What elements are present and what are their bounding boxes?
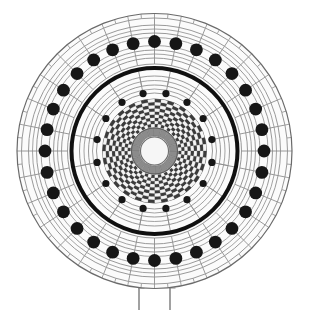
inner-column-dot (208, 159, 215, 166)
mosaic-cell (148, 99, 155, 103)
inner-column-dot (200, 180, 207, 187)
mosaic-cell (155, 102, 161, 106)
mosaic-cell (155, 190, 161, 193)
perimeter-column-dot (190, 246, 203, 259)
perimeter-column-dot (57, 84, 70, 97)
perimeter-column-dot (169, 252, 182, 265)
legs-group (138, 288, 175, 310)
mosaic-cell (184, 147, 187, 151)
mosaic-cell (155, 187, 160, 190)
perimeter-column-dot (57, 205, 70, 218)
inner-column-dot (94, 159, 101, 166)
circular-plan-figure (0, 0, 309, 316)
mosaic-cell (106, 151, 110, 157)
mosaic-cell (150, 181, 154, 184)
perimeter-column-dot (226, 222, 239, 235)
perimeter-column-dot (47, 103, 60, 116)
mosaic-cell (148, 196, 154, 200)
mosaic-cell (127, 151, 130, 155)
mosaic-cell (151, 178, 155, 181)
perimeter-column-dot (71, 222, 84, 235)
mosaic-cell (149, 105, 155, 108)
mosaic-cell (127, 147, 130, 151)
mosaic-cell (150, 184, 155, 187)
mosaic-cell (155, 115, 160, 118)
perimeter-column-dot (148, 254, 161, 267)
inner-column-dot (139, 90, 146, 97)
mosaic-cell (150, 115, 155, 118)
mosaic-cell (181, 147, 184, 151)
mosaic-cell (124, 147, 127, 151)
hub-oculus-disc (141, 137, 169, 165)
hub-group (132, 128, 178, 174)
inner-column-dot (94, 136, 101, 143)
mosaic-cell (155, 196, 161, 200)
perimeter-column-dot (127, 37, 140, 50)
perimeter-column-dot (239, 205, 252, 218)
mosaic-cell (188, 151, 191, 156)
mosaic-cell (151, 175, 155, 178)
mosaic-cell (194, 151, 197, 157)
perimeter-column-dot (209, 236, 222, 249)
perimeter-column-dot (190, 43, 203, 56)
mosaic-cell (121, 151, 124, 155)
perimeter-column-dot (239, 84, 252, 97)
perimeter-column-dot (255, 166, 268, 179)
perimeter-column-dot (127, 252, 140, 265)
inner-column-dot (118, 196, 125, 203)
perimeter-column-dot (255, 123, 268, 136)
perimeter-column-dot (71, 67, 84, 80)
perimeter-column-dot (258, 145, 271, 158)
perimeter-column-dot (249, 187, 262, 200)
perimeter-column-dot (209, 54, 222, 67)
mosaic-cell (200, 151, 204, 157)
mosaic-cell (118, 146, 121, 151)
mosaic-cell (155, 124, 159, 127)
mosaic-cell (149, 111, 154, 114)
perimeter-column-dot (226, 67, 239, 80)
inner-column-dot (102, 180, 109, 187)
mosaic-cell (112, 151, 115, 157)
mosaic-cell (115, 146, 118, 151)
mosaic-cell (151, 124, 155, 127)
mosaic-cell (155, 108, 161, 111)
mosaic-cell (112, 145, 115, 151)
perimeter-column-dot (87, 236, 100, 249)
mosaic-cell (149, 108, 155, 111)
perimeter-column-dot (148, 35, 161, 48)
mosaic-cell (118, 151, 121, 156)
mosaic-cell (155, 99, 162, 103)
mosaic-cell (184, 151, 187, 155)
perimeter-column-dot (169, 37, 182, 50)
mosaic-cell (178, 147, 181, 151)
mosaic-cell (103, 144, 107, 151)
perimeter-column-dot (39, 145, 52, 158)
mosaic-cell (155, 181, 159, 184)
mosaic-cell (115, 151, 118, 156)
mosaic-cell (103, 151, 107, 158)
mosaic-cell (149, 187, 154, 190)
inner-column-dot (200, 115, 207, 122)
mosaic-cell (194, 145, 197, 151)
mosaic-cell (188, 146, 191, 151)
mosaic-cell (203, 144, 207, 151)
perimeter-column-dot (41, 166, 54, 179)
mosaic-cell (106, 145, 110, 151)
mosaic-cell (148, 102, 154, 106)
mosaic-cell (197, 145, 200, 151)
mosaic-cell (191, 146, 194, 151)
perimeter-column-dot (87, 54, 100, 67)
mosaic-cell (191, 151, 194, 156)
mosaic-cell (149, 193, 155, 196)
mosaic-cell (155, 111, 160, 114)
mosaic-cell (149, 190, 155, 193)
perimeter-column-dot (249, 103, 262, 116)
mosaic-cell (109, 145, 112, 151)
mosaic-cell (148, 199, 155, 203)
mosaic-cell (150, 118, 154, 121)
mosaic-cell (178, 151, 181, 155)
mosaic-cell (121, 147, 124, 151)
drawing-canvas: Circular Dome Plan Plan view of a circul… (0, 0, 309, 316)
inner-column-dot (183, 99, 190, 106)
perimeter-column-dot (106, 246, 119, 259)
